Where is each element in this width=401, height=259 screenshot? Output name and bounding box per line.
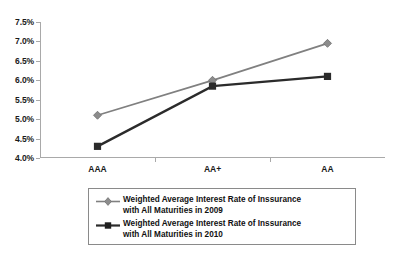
data-point-square-marker <box>324 73 331 80</box>
legend-label-2009: Weighted Average Interest Rate of Inssur… <box>121 195 301 216</box>
y-axis-tick-label: 6.5% <box>15 56 34 66</box>
y-axis-tick-labels: 7.5%7.0%6.5%6.0%5.5%5.0%4.5%4.0% <box>0 22 34 158</box>
y-axis-tick-label: 6.0% <box>15 75 34 85</box>
x-axis-tick-label: AA <box>321 164 333 174</box>
data-point-square-marker <box>94 143 101 150</box>
x-axis-tick <box>155 158 156 162</box>
line-chart-figure: 7.5%7.0%6.5%6.0%5.5%5.0%4.5%4.0% AAAAA+A… <box>0 0 401 259</box>
series-plot <box>40 22 385 158</box>
x-axis-tick-label: AAA <box>88 164 106 174</box>
legend-item-2009: Weighted Average Interest Rate of Inssur… <box>95 195 301 216</box>
y-axis-tick-label: 5.0% <box>15 114 34 124</box>
data-point-diamond-marker <box>94 111 102 119</box>
x-axis-tick-label: AA+ <box>204 164 221 174</box>
y-axis-tick-label: 4.5% <box>15 134 34 144</box>
legend-item-2010: Weighted Average Interest Rate of Inssur… <box>95 219 301 240</box>
data-point-square-marker <box>209 83 216 90</box>
x-axis-tick-labels: AAAAA+AA <box>40 164 385 178</box>
y-axis-tick-label: 7.5% <box>15 17 34 27</box>
x-axis-tick <box>270 158 271 162</box>
y-axis-tick-label: 4.0% <box>15 153 34 163</box>
y-axis-tick-label: 5.5% <box>15 95 34 105</box>
legend-diamond-marker-icon <box>95 196 121 207</box>
data-point-diamond-marker <box>324 39 332 47</box>
legend-square-marker-icon <box>95 220 121 231</box>
chart-legend: Weighted Average Interest Rate of Inssur… <box>88 188 356 245</box>
plot-area <box>40 22 385 157</box>
y-axis-tick <box>36 158 40 159</box>
legend-label-2010: Weighted Average Interest Rate of Inssur… <box>121 219 301 240</box>
y-axis-tick-label: 7.0% <box>15 36 34 46</box>
